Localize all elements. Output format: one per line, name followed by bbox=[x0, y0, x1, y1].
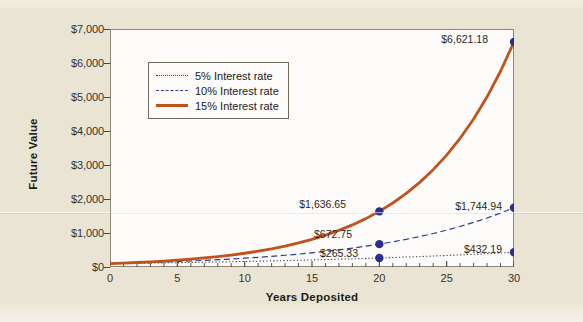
x-tick-label: 5 bbox=[157, 272, 197, 284]
data-label-5pct-y20: $265.33 bbox=[300, 247, 358, 259]
data-point-marker bbox=[510, 38, 514, 46]
y-tick-label: $6,000 bbox=[4, 57, 104, 69]
x-tick-label: 15 bbox=[292, 272, 332, 284]
legend-swatch-dotted-icon bbox=[156, 71, 188, 81]
x-tick-label: 0 bbox=[90, 272, 130, 284]
y-axis-title: Future Value bbox=[27, 94, 39, 214]
x-axis-title: Years Deposited bbox=[110, 291, 514, 303]
y-tick-label: $1,000 bbox=[4, 227, 104, 239]
chart-legend: 5% Interest rate 10% Interest rate 15% I… bbox=[148, 62, 289, 119]
y-tick-mark bbox=[104, 267, 110, 268]
data-point-marker bbox=[375, 207, 383, 215]
legend-label: 10% Interest rate bbox=[195, 85, 279, 97]
legend-swatch-dashed-icon bbox=[156, 86, 188, 96]
data-label-10pct-y20: $672.75 bbox=[294, 228, 352, 240]
legend-label: 5% Interest rate bbox=[195, 70, 273, 82]
x-tick-label: 25 bbox=[427, 272, 467, 284]
y-tick-label: $0 bbox=[4, 261, 104, 273]
marker-layer bbox=[375, 38, 514, 262]
y-axis-ticks: $7,000 $6,000 $5,000 $4,000 $3,000 $2,00… bbox=[0, 0, 104, 322]
y-tick-label: $7,000 bbox=[4, 23, 104, 35]
data-label-10pct-y30: $1,744.94 bbox=[434, 200, 502, 212]
data-point-marker bbox=[375, 254, 383, 262]
x-tick-label: 30 bbox=[494, 272, 534, 284]
legend-swatch-solid-icon bbox=[156, 101, 188, 111]
x-tick-label: 20 bbox=[359, 272, 399, 284]
data-point-marker bbox=[510, 203, 514, 211]
y-tick-label: $5,000 bbox=[4, 91, 104, 103]
data-label-5pct-y30: $432.19 bbox=[444, 243, 502, 255]
data-point-marker bbox=[375, 240, 383, 248]
legend-item-rate5: 5% Interest rate bbox=[156, 68, 279, 83]
x-tick-label: 10 bbox=[225, 272, 265, 284]
y-tick-label: $4,000 bbox=[4, 125, 104, 137]
data-label-15pct-y30: $6,621.18 bbox=[420, 33, 488, 45]
legend-item-rate15: 15% Interest rate bbox=[156, 98, 279, 113]
y-tick-label: $2,000 bbox=[4, 193, 104, 205]
data-point-marker bbox=[510, 248, 514, 256]
chart-page: $7,000 $6,000 $5,000 $4,000 $3,000 $2,00… bbox=[0, 0, 583, 322]
data-label-15pct-y20: $1,636.65 bbox=[278, 198, 346, 210]
y-tick-label: $3,000 bbox=[4, 159, 104, 171]
legend-label: 15% Interest rate bbox=[195, 100, 279, 112]
legend-item-rate10: 10% Interest rate bbox=[156, 83, 279, 98]
